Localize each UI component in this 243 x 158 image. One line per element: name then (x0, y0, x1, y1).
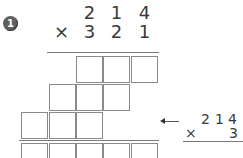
answer-box-r3-c1[interactable] (21, 112, 48, 139)
result-box-c3[interactable] (76, 143, 103, 158)
result-box-c4[interactable] (103, 143, 130, 158)
result-box-c5[interactable] (131, 143, 158, 158)
hint-multiplicand-ones: 4 (228, 112, 237, 126)
answer-box-r1-c3[interactable] (76, 56, 103, 83)
answer-box-r1-c5[interactable] (131, 56, 158, 83)
left-arrow-icon (162, 121, 179, 122)
multiplier-digit-hundreds: 3 (76, 23, 103, 41)
multiplicand-digit-tens: 1 (103, 4, 130, 22)
answer-box-r1-c4[interactable] (103, 56, 130, 83)
sum-rule-line (19, 140, 159, 141)
hint-rule-line (183, 141, 243, 142)
multiplicand-digit-hundreds: 2 (76, 4, 103, 22)
answer-box-r2-c3[interactable] (76, 84, 103, 111)
problem-number-badge: 1 (3, 16, 18, 31)
hint-multiplicand-tens: 1 (215, 112, 224, 126)
multiplier-digit-tens: 2 (103, 23, 130, 41)
problem-rule-line (47, 52, 159, 53)
answer-box-r3-c3[interactable] (76, 112, 103, 139)
hint-times-operator: × (185, 126, 197, 140)
hint-multiplier-digit: 3 (229, 126, 238, 140)
multiplicand-digit-ones: 4 (131, 4, 158, 22)
answer-box-r2-c2[interactable] (49, 84, 76, 111)
hint-multiplicand-hundreds: 2 (201, 112, 210, 126)
answer-box-r2-c4[interactable] (103, 84, 130, 111)
result-box-c2[interactable] (49, 143, 76, 158)
answer-box-r3-c2[interactable] (49, 112, 76, 139)
multiplier-digit-ones: 1 (131, 23, 158, 41)
result-box-c1[interactable] (21, 143, 48, 158)
times-operator: × (48, 23, 75, 41)
